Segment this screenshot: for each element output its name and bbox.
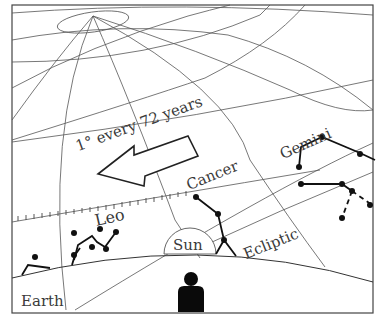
meridian <box>12 16 93 120</box>
precession-diagram <box>0 0 378 321</box>
grid-curve <box>12 5 270 62</box>
sun-label: Sun <box>173 238 203 253</box>
observer-person-icon <box>178 272 204 312</box>
grid-curve <box>12 7 373 15</box>
precession-arrow <box>98 136 198 186</box>
diagram-frame <box>12 5 373 313</box>
earth-label: Earth <box>21 294 64 309</box>
meridian <box>93 16 373 111</box>
